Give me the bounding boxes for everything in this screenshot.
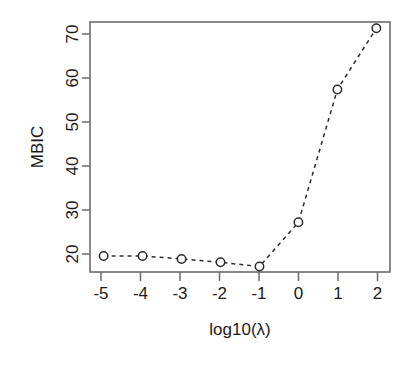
data-point-marker <box>99 252 107 260</box>
y-axis-ticks <box>82 34 90 254</box>
data-point-marker <box>216 258 224 266</box>
data-point-marker <box>255 262 263 270</box>
data-point-marker <box>372 24 380 32</box>
y-tick-label-40: 40 <box>63 157 82 176</box>
x-tick-label-0: 0 <box>294 284 303 303</box>
x-tick-label-neg3: -3 <box>172 284 187 303</box>
x-axis-title: log10(λ) <box>209 320 270 339</box>
plot-panel-background <box>90 22 390 272</box>
data-point-marker <box>138 252 146 260</box>
x-tick-label-neg2: -2 <box>212 284 227 303</box>
x-tick-label-2: 2 <box>373 284 382 303</box>
y-tick-label-70: 70 <box>63 25 82 44</box>
data-point-marker <box>177 255 185 263</box>
x-tick-label-1: 1 <box>333 284 342 303</box>
x-tick-label-neg5: -5 <box>93 284 108 303</box>
x-tick-label-neg4: -4 <box>133 284 148 303</box>
y-tick-label-30: 30 <box>63 201 82 220</box>
y-tick-label-20: 20 <box>63 245 82 264</box>
x-tick-label-neg1: -1 <box>251 284 266 303</box>
data-point-marker <box>294 218 302 226</box>
chart-container: 70 60 50 40 30 20 MBIC -5 -4 -3 -2 -1 <box>0 0 415 369</box>
y-axis-tick-labels: 70 60 50 40 30 20 <box>63 25 82 264</box>
x-axis-tick-labels: -5 -4 -3 -2 -1 0 1 2 <box>93 284 382 303</box>
x-axis-ticks <box>101 272 378 281</box>
data-point-marker <box>333 85 341 93</box>
y-tick-label-60: 60 <box>63 69 82 88</box>
y-tick-label-50: 50 <box>63 113 82 132</box>
mbic-vs-loglambda-line-chart: 70 60 50 40 30 20 MBIC -5 -4 -3 -2 -1 <box>0 0 415 369</box>
y-axis-title: MBIC <box>28 126 47 169</box>
